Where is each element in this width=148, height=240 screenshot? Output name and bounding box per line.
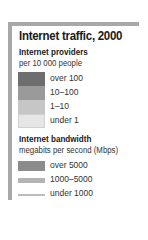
legend-label: under 1 <box>50 115 79 125</box>
band-over-5000 <box>18 161 45 171</box>
swatch-1-10 <box>18 100 45 114</box>
legend-label: 1000–5000 <box>50 174 93 184</box>
swatch-over-100 <box>18 72 45 86</box>
legend-top-border <box>8 22 139 26</box>
legend-item-providers-10-100: 10–100 <box>18 86 138 100</box>
legend-title: Internet traffic, 2000 <box>19 29 122 43</box>
band-1000-5000 <box>18 178 45 183</box>
legend-item-providers-over-100: over 100 <box>18 72 138 86</box>
providers-title: Internet providers <box>19 47 88 57</box>
swatch-10-100 <box>18 86 45 100</box>
legend-item-providers-1-10: 1–10 <box>18 100 138 114</box>
legend-label: 1–10 <box>50 101 69 111</box>
bandwidth-title: Internet bandwidth <box>19 134 91 144</box>
legend-label: over 100 <box>50 73 83 83</box>
legend-item-providers-under-1: under 1 <box>18 114 138 128</box>
legend-left-border <box>8 22 12 200</box>
bandwidth-subtitle: megabits per second (Mbps) <box>19 145 118 155</box>
band-under-1000 <box>18 194 45 196</box>
legend-label: under 1000 <box>50 188 93 198</box>
swatch-under-1 <box>18 114 45 128</box>
legend-label: 10–100 <box>50 87 78 97</box>
legend-item-bandwidth-under-1000: under 1000 <box>18 187 138 201</box>
legend-label: over 5000 <box>50 160 88 170</box>
providers-subtitle: per 10 000 people <box>19 58 82 68</box>
legend-item-bandwidth-over-5000: over 5000 <box>18 159 138 173</box>
map-legend: Internet traffic, 2000 Internet provider… <box>8 22 139 200</box>
legend-item-bandwidth-1000-5000: 1000–5000 <box>18 173 138 187</box>
